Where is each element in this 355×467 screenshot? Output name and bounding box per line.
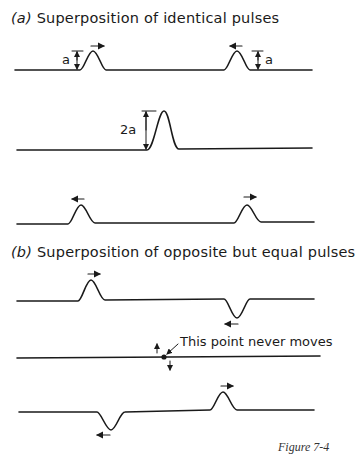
row1-right-amplitude-marker bbox=[252, 51, 263, 69]
fixed-point-dot bbox=[161, 354, 166, 359]
row1-left-amplitude-label: a bbox=[62, 52, 70, 67]
row5-annotation-pointer bbox=[167, 344, 178, 354]
row1-right-amplitude-label: a bbox=[265, 52, 273, 67]
row1-left-amplitude-marker bbox=[72, 51, 83, 69]
row2-amplitude-marker bbox=[142, 111, 156, 149]
row6-string bbox=[19, 392, 314, 430]
row2-string bbox=[17, 111, 312, 150]
row3-string bbox=[17, 205, 314, 224]
figure-caption: Figure 7-4 bbox=[278, 440, 329, 455]
row4-string bbox=[17, 280, 314, 318]
row5-string bbox=[17, 356, 320, 358]
row2-sum-label: 2a bbox=[120, 122, 136, 137]
fixed-point-annotation: This point never moves bbox=[180, 334, 332, 349]
